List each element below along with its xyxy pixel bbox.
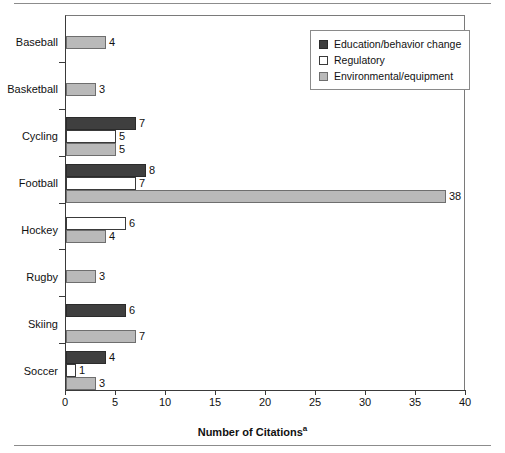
bar-value-label: 4 xyxy=(106,351,115,364)
bar-row: 4 xyxy=(66,230,466,243)
bar-value-label: 6 xyxy=(126,304,135,317)
legend-label: Education/behavior change xyxy=(334,38,461,50)
bar[interactable] xyxy=(66,351,106,364)
bar-value-label: 7 xyxy=(136,177,145,190)
bar-row: 5 xyxy=(66,143,466,156)
bar[interactable] xyxy=(66,190,446,203)
chart-figure: 4Baseball3Basketball755Cycling8738Footba… xyxy=(0,0,505,453)
legend-label: Regulatory xyxy=(334,54,385,66)
bar-value-label: 3 xyxy=(96,83,105,96)
bar[interactable] xyxy=(66,364,76,377)
x-tick-mark xyxy=(265,390,266,395)
chart-legend: Education/behavior changeRegulatoryEnvir… xyxy=(310,30,470,90)
category-label-basketball: Basketball xyxy=(0,83,58,95)
bar-value-label: 3 xyxy=(96,270,105,283)
legend-item[interactable]: Education/behavior change xyxy=(319,36,463,52)
bar-row: 6 xyxy=(66,304,466,317)
bar-value-label: 1 xyxy=(76,364,85,377)
top-divider-rule xyxy=(14,3,491,4)
legend-item[interactable]: Environmental/equipment xyxy=(319,68,463,84)
bar-value-label: 3 xyxy=(96,377,105,390)
category-axis-tick xyxy=(59,249,65,250)
bar[interactable] xyxy=(66,304,126,317)
category-label-skiing: Skiing xyxy=(0,318,58,330)
bar[interactable] xyxy=(66,164,146,177)
bar[interactable] xyxy=(66,217,126,230)
bar-row: 7 xyxy=(66,330,466,343)
x-tick-label: 0 xyxy=(62,396,68,408)
x-tick-mark xyxy=(165,390,166,395)
category-group: 413Soccer xyxy=(0,343,505,390)
legend-swatch-icon xyxy=(319,40,328,49)
bar[interactable] xyxy=(66,36,106,49)
bar-value-label: 38 xyxy=(446,190,461,203)
x-tick-label: 35 xyxy=(409,396,421,408)
category-axis-tick xyxy=(59,62,65,63)
legend-swatch-icon xyxy=(319,56,328,65)
bar-value-label: 4 xyxy=(106,36,115,49)
category-group: 755Cycling xyxy=(0,109,505,156)
category-label-soccer: Soccer xyxy=(0,365,58,377)
category-label-football: Football xyxy=(0,177,58,189)
x-tick-mark xyxy=(465,390,466,395)
bar-row: 6 xyxy=(66,217,466,230)
bar-value-label: 5 xyxy=(116,143,125,156)
bar[interactable] xyxy=(66,177,136,190)
category-axis-tick xyxy=(59,343,65,344)
bar[interactable] xyxy=(66,143,116,156)
bar-value-label: 5 xyxy=(116,130,125,143)
category-axis-tick xyxy=(59,109,65,110)
x-tick-mark xyxy=(365,390,366,395)
category-axis-tick xyxy=(59,296,65,297)
x-tick-mark xyxy=(315,390,316,395)
category-label-hockey: Hockey xyxy=(0,224,58,236)
bar[interactable] xyxy=(66,270,96,283)
bar-row: 3 xyxy=(66,270,466,283)
legend-swatch-icon xyxy=(319,72,328,81)
bar-value-label: 8 xyxy=(146,164,155,177)
bar[interactable] xyxy=(66,377,96,390)
x-tick-label: 40 xyxy=(459,396,471,408)
bar-row: 5 xyxy=(66,130,466,143)
bar[interactable] xyxy=(66,83,96,96)
x-axis-title: Number of Citationsa xyxy=(0,424,505,438)
legend-label: Environmental/equipment xyxy=(334,70,453,82)
x-tick-label: 15 xyxy=(209,396,221,408)
bar-row: 7 xyxy=(66,117,466,130)
bar-row: 38 xyxy=(66,190,466,203)
bottom-divider-rule xyxy=(14,445,491,446)
bar-value-label: 6 xyxy=(126,217,135,230)
x-tick-label: 10 xyxy=(159,396,171,408)
x-tick-mark xyxy=(115,390,116,395)
bar[interactable] xyxy=(66,230,106,243)
bar[interactable] xyxy=(66,330,136,343)
bar-row: 3 xyxy=(66,377,466,390)
bar[interactable] xyxy=(66,117,136,130)
category-label-cycling: Cycling xyxy=(0,130,58,142)
bar[interactable] xyxy=(66,130,116,143)
bar-row: 8 xyxy=(66,164,466,177)
category-group: 607Skiing xyxy=(0,296,505,343)
x-axis-title-footnote-marker: a xyxy=(303,424,307,433)
legend-item[interactable]: Regulatory xyxy=(319,52,463,68)
x-axis-ticks: 0510152025303540 xyxy=(0,390,505,414)
bar-value-label: 7 xyxy=(136,330,145,343)
x-tick-label: 30 xyxy=(359,396,371,408)
bar-row: 7 xyxy=(66,177,466,190)
x-tick-mark xyxy=(415,390,416,395)
category-axis-tick xyxy=(59,203,65,204)
bar-value-label: 4 xyxy=(106,230,115,243)
category-label-baseball: Baseball xyxy=(0,36,58,48)
x-tick-label: 25 xyxy=(309,396,321,408)
x-tick-label: 20 xyxy=(259,396,271,408)
category-axis-tick xyxy=(59,156,65,157)
x-axis-title-text: Number of Citations xyxy=(198,426,303,438)
category-group: 8738Football xyxy=(0,156,505,203)
x-tick-mark xyxy=(215,390,216,395)
x-tick-label: 5 xyxy=(112,396,118,408)
category-label-rugby: Rugby xyxy=(0,271,58,283)
x-tick-mark xyxy=(65,390,66,395)
bar-row: 4 xyxy=(66,351,466,364)
category-group: 3Rugby xyxy=(0,249,505,296)
bar-row: 1 xyxy=(66,364,466,377)
